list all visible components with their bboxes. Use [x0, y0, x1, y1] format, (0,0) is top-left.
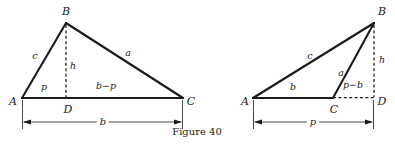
side-label-p-acute: p: [41, 82, 47, 92]
side-label-c-acute: c: [32, 51, 37, 61]
vertex-label-d-obtuse: D: [378, 96, 387, 107]
side-label-h-obtuse: h: [379, 55, 385, 65]
side-label-a-obtuse: a: [338, 68, 344, 78]
side-label-p-minus-b-obtuse: p−b: [343, 80, 363, 90]
side-label-a-acute: a: [125, 48, 131, 58]
figure-svg: [0, 0, 395, 144]
obtuse-triangle-group: [253, 23, 374, 129]
vertex-label-b-acute: B: [62, 6, 70, 17]
vertex-label-c-acute: C: [187, 96, 195, 107]
side-label-b-obtuse: b: [290, 82, 296, 92]
acute-triangle-group: [22, 23, 183, 129]
vertex-label-b-obtuse: B: [378, 6, 386, 17]
side-label-b-minus-p-acute: b−p: [96, 81, 116, 91]
vertex-label-a-obtuse: A: [241, 96, 249, 107]
vertex-label-c-obtuse: C: [330, 104, 338, 115]
vertex-label-d-acute: D: [64, 104, 73, 115]
dimension-label-p-obtuse: p: [307, 117, 319, 127]
edge-side-a-acute: [66, 23, 183, 98]
side-label-c-obtuse: c: [307, 51, 312, 61]
dimension-arrowhead-left-acute: [23, 119, 31, 124]
vertex-label-a-acute: A: [9, 96, 17, 107]
dimension-arrowhead-right-acute: [174, 119, 182, 124]
figure-40-container: A B C D c a h p b−p b A B C D c a h b p−…: [0, 0, 395, 144]
dimension-arrowhead-right-obtuse: [365, 119, 373, 124]
figure-caption: Figure 40: [172, 126, 222, 137]
dimension-label-b-acute: b: [97, 117, 109, 127]
side-label-h-acute: h: [70, 61, 76, 71]
dimension-arrowhead-left-obtuse: [254, 119, 262, 124]
